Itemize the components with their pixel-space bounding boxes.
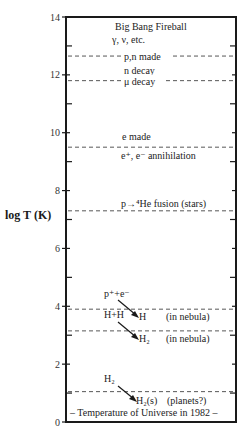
y-axis-title: log T (K) bbox=[5, 208, 51, 222]
h2-reactant-label: H+H bbox=[104, 309, 124, 320]
y-tick-label: 2 bbox=[55, 359, 60, 370]
y-tick-label: 10 bbox=[50, 127, 60, 138]
y-tick-label: 12 bbox=[50, 69, 60, 80]
annihilation-label: e⁺, e⁻ annihilation bbox=[121, 150, 196, 161]
h2s-product-label: H₂(s) bbox=[136, 395, 157, 407]
y-tick-label: 14 bbox=[50, 12, 60, 23]
particles-label: γ, ν, etc. bbox=[111, 34, 145, 45]
y-tick-label: 4 bbox=[55, 301, 60, 312]
fusion-label: p→⁴He fusion (stars) bbox=[121, 198, 206, 210]
planets-note: (planets?) bbox=[167, 395, 206, 407]
temperature-history-diagram: 02468101214 log T (K) Big Bang Fireball … bbox=[0, 0, 252, 434]
e-made-label: e made bbox=[122, 131, 151, 142]
h2-product-label: H₂ bbox=[139, 333, 150, 344]
y-tick-label: 6 bbox=[55, 243, 60, 254]
y-tick-label: 8 bbox=[55, 185, 60, 196]
h-reactant-label: p⁺+e⁻ bbox=[104, 288, 130, 299]
h-product-label: H bbox=[139, 311, 146, 322]
h2-nebula-note: (in nebula) bbox=[166, 333, 210, 345]
y-tick-label: 0 bbox=[55, 417, 60, 428]
h2s-reactant-label: H₂ bbox=[104, 373, 115, 384]
pn-made-label: p,n made bbox=[124, 51, 161, 62]
h-nebula-note: (in nebula) bbox=[166, 311, 210, 323]
universe-temperature-1982-label: – Temperature of Universe in 1982 – bbox=[69, 407, 218, 418]
n-decay-label: n decay bbox=[124, 65, 155, 76]
big-bang-fireball-label: Big Bang Fireball bbox=[115, 21, 187, 32]
mu-decay-label: μ decay bbox=[124, 76, 155, 87]
